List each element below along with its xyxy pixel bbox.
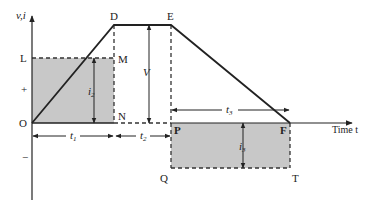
t1-label: t1 <box>70 129 77 143</box>
point-N: N <box>118 110 126 122</box>
plus-sign: + <box>21 83 27 95</box>
V-label: V <box>143 66 151 78</box>
y-axis-label: v,i <box>16 9 26 21</box>
t2-label: t2 <box>140 129 147 143</box>
point-D: D <box>110 10 118 22</box>
point-F: F <box>280 124 287 136</box>
minus-sign: − <box>22 151 28 163</box>
point-P: P <box>174 124 181 136</box>
negative-current-area <box>171 123 290 168</box>
point-L: L <box>20 52 27 64</box>
t3-label: t3 <box>226 103 233 117</box>
velocity-time-diagram: v,i Time t + − O L M N D E P F Q T i2 V … <box>0 0 370 210</box>
x-axis-label: Time t <box>332 124 358 135</box>
point-E: E <box>167 10 174 22</box>
point-T: T <box>292 172 299 184</box>
positive-current-area <box>32 58 114 123</box>
origin-label: O <box>19 117 27 129</box>
point-M: M <box>118 53 128 65</box>
point-Q: Q <box>160 172 168 184</box>
